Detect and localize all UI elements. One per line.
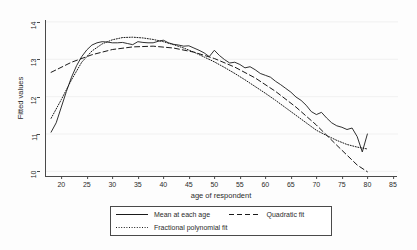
x-tick-label: 75 bbox=[338, 181, 346, 188]
x-tick-mark bbox=[61, 176, 62, 179]
x-tick-mark bbox=[265, 176, 266, 179]
legend-label-quadratic-fit: Quadratic fit bbox=[267, 211, 305, 218]
x-tick-mark bbox=[214, 176, 215, 179]
x-tick-label: 65 bbox=[287, 181, 295, 188]
x-tick-label: 35 bbox=[134, 181, 142, 188]
x-tick-80: 80 bbox=[363, 176, 371, 188]
x-tick-mark bbox=[291, 176, 292, 179]
x-tick-label: 30 bbox=[108, 181, 116, 188]
x-tick-label: 25 bbox=[83, 181, 91, 188]
y-tick-mark bbox=[37, 97, 40, 98]
x-tick-label: 45 bbox=[185, 181, 193, 188]
x-tick-mark bbox=[87, 176, 88, 179]
x-tick-35: 35 bbox=[134, 176, 142, 188]
chart-legend: Mean at each age Quadratic fit Fractiona… bbox=[110, 206, 332, 236]
y-axis-title: Fitted values bbox=[16, 77, 25, 120]
y-tick-mark bbox=[37, 59, 40, 60]
x-tick-50: 50 bbox=[210, 176, 218, 188]
legend-key-dashed-line bbox=[228, 211, 262, 218]
x-tick-75: 75 bbox=[338, 176, 346, 188]
x-tick-30: 30 bbox=[108, 176, 116, 188]
x-tick-label: 20 bbox=[57, 181, 65, 188]
x-tick-60: 60 bbox=[261, 176, 269, 188]
y-tick-label: 11 bbox=[31, 134, 38, 141]
x-tick-mark bbox=[393, 176, 394, 179]
x-tick-mark bbox=[112, 176, 113, 179]
x-tick-mark bbox=[342, 176, 343, 179]
y-tick-label: 14 bbox=[31, 21, 38, 29]
x-tick-mark bbox=[163, 176, 164, 179]
x-tick-mark bbox=[367, 176, 368, 179]
y-tick-label: 13 bbox=[31, 59, 38, 67]
y-tick-label: 12 bbox=[31, 96, 38, 104]
x-tick-45: 45 bbox=[185, 176, 193, 188]
legend-item-mean-at-each-age: Mean at each age bbox=[115, 211, 228, 218]
legend-label-mean-at-each-age: Mean at each age bbox=[154, 211, 210, 218]
x-tick-mark bbox=[138, 176, 139, 179]
legend-key-dotted-line bbox=[115, 224, 149, 231]
x-tick-mark bbox=[240, 176, 241, 179]
y-tick-mark bbox=[37, 171, 40, 172]
plot-area: 1011121314 2025303540455055606570758085 bbox=[45, 20, 397, 177]
chart-figure: 1011121314 2025303540455055606570758085 … bbox=[0, 0, 417, 250]
legend-label-fractional-polynomial-fit: Fractional polynomial fit bbox=[154, 224, 228, 231]
x-tick-label: 55 bbox=[236, 181, 244, 188]
x-tick-mark bbox=[316, 176, 317, 179]
x-tick-70: 70 bbox=[312, 176, 320, 188]
x-tick-25: 25 bbox=[83, 176, 91, 188]
y-tick-label: 10 bbox=[31, 171, 38, 179]
x-tick-label: 80 bbox=[363, 181, 371, 188]
x-tick-55: 55 bbox=[236, 176, 244, 188]
x-tick-mark bbox=[189, 176, 190, 179]
legend-key-solid-line bbox=[115, 211, 149, 218]
x-tick-label: 60 bbox=[261, 181, 269, 188]
x-tick-label: 40 bbox=[159, 181, 167, 188]
x-tick-20: 20 bbox=[57, 176, 65, 188]
legend-item-fractional-polynomial-fit: Fractional polynomial fit bbox=[115, 224, 228, 231]
y-tick-mark bbox=[37, 22, 40, 23]
legend-item-quadratic-fit: Quadratic fit bbox=[228, 211, 327, 218]
x-tick-label: 70 bbox=[312, 181, 320, 188]
x-tick-40: 40 bbox=[159, 176, 167, 188]
x-tick-85: 85 bbox=[389, 176, 397, 188]
chart-canvas bbox=[46, 20, 398, 177]
x-tick-label: 50 bbox=[210, 181, 218, 188]
x-tick-65: 65 bbox=[287, 176, 295, 188]
x-tick-label: 85 bbox=[389, 181, 397, 188]
x-axis-title: age of respondent bbox=[45, 191, 397, 200]
